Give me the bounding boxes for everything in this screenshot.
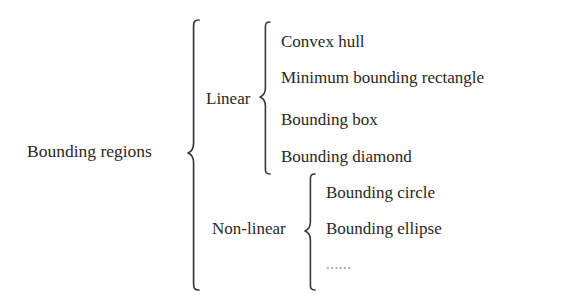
- leaf-bounding-box: Bounding box: [281, 111, 378, 128]
- root-node-label: Bounding regions: [27, 143, 152, 161]
- leaf-minimum-bounding-rectangle: Minimum bounding rectangle: [281, 69, 484, 86]
- bounding-regions-tree-diagram: Bounding regions Linear Convex hull Mini…: [0, 0, 570, 304]
- root-brace-icon: [186, 18, 202, 292]
- branch-label-non-linear: Non-linear: [212, 220, 286, 237]
- leaf-bounding-circle: Bounding circle: [326, 184, 435, 201]
- linear-branch-brace-icon: [258, 20, 272, 176]
- leaf-convex-hull: Convex hull: [281, 33, 365, 50]
- branch-label-linear: Linear: [206, 90, 250, 107]
- leaf-bounding-diamond: Bounding diamond: [281, 148, 412, 165]
- leaf-ellipsis-more-items: ......: [326, 257, 352, 272]
- non-linear-branch-brace-icon: [303, 172, 317, 292]
- leaf-bounding-ellipse: Bounding ellipse: [326, 220, 442, 237]
